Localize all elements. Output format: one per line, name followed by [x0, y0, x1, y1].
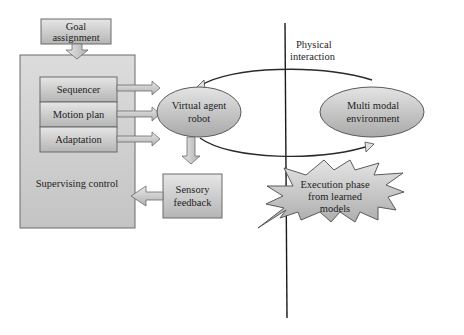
- svg-text:assignment: assignment: [52, 32, 99, 43]
- svg-text:robot: robot: [188, 113, 210, 124]
- environment-node: Multi modal environment: [320, 87, 424, 137]
- svg-text:Sequencer: Sequencer: [57, 84, 101, 95]
- svg-text:Sensory: Sensory: [176, 184, 211, 195]
- svg-text:Motion plan: Motion plan: [53, 109, 105, 120]
- svg-text:Execution phase: Execution phase: [300, 179, 369, 190]
- goal-assignment-box: Goal assignment: [41, 19, 111, 44]
- loop-arrowhead-right: [365, 142, 374, 152]
- module-motion-plan: Motion plan: [40, 102, 117, 127]
- svg-text:models: models: [320, 203, 350, 214]
- robot-to-feedback-arrow: [182, 137, 200, 164]
- physical-interaction-label: Physical interaction: [290, 39, 336, 62]
- svg-text:Virtual agent: Virtual agent: [172, 100, 227, 111]
- svg-text:Physical: Physical: [296, 39, 332, 50]
- svg-text:environment: environment: [346, 113, 399, 124]
- execution-phase-burst: Execution phase from learned models: [258, 160, 409, 268]
- sensory-feedback-box: Sensory feedback: [163, 174, 222, 218]
- module-adaptation: Adaptation: [40, 127, 117, 152]
- svg-text:Goal: Goal: [66, 21, 86, 32]
- svg-text:Adaptation: Adaptation: [55, 134, 102, 145]
- supervising-control-label: Supervising control: [36, 178, 119, 189]
- diagram-canvas: Supervising control Goal assignment Sequ…: [0, 0, 464, 335]
- svg-text:Multi modal: Multi modal: [347, 100, 399, 111]
- svg-text:interaction: interaction: [290, 51, 336, 62]
- feedback-to-control-arrow: [131, 186, 163, 206]
- svg-text:feedback: feedback: [174, 197, 213, 208]
- svg-text:from learned: from learned: [308, 191, 363, 202]
- module-sequencer: Sequencer: [40, 77, 117, 102]
- virtual-agent-robot-node: Virtual agent robot: [157, 87, 241, 137]
